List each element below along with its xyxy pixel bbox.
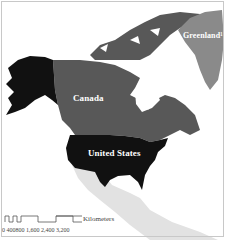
scale-tick-labels: 0 400800 1,600 2,400 3,200 xyxy=(2,227,70,233)
label-greenland: Greenland¹ xyxy=(183,31,223,40)
region-mexico xyxy=(72,165,218,240)
north-america-map: Canada United States Greenland¹ Kilomete… xyxy=(0,0,227,240)
label-canada: Canada xyxy=(73,93,104,103)
region-alaska xyxy=(6,56,58,115)
scale-bar xyxy=(5,216,82,222)
scale-unit-label: Kilometers xyxy=(83,215,114,223)
label-united-states: United States xyxy=(88,148,141,158)
